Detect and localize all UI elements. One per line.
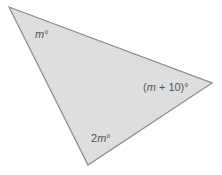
angle-label-bottom: 2m° — [91, 132, 111, 144]
triangle-diagram: m° (m + 10)° 2m° — [0, 0, 222, 175]
triangle-shape — [0, 0, 222, 175]
angle-label-right: (m + 10)° — [143, 81, 189, 93]
angle-label-top-left: m° — [35, 28, 49, 40]
